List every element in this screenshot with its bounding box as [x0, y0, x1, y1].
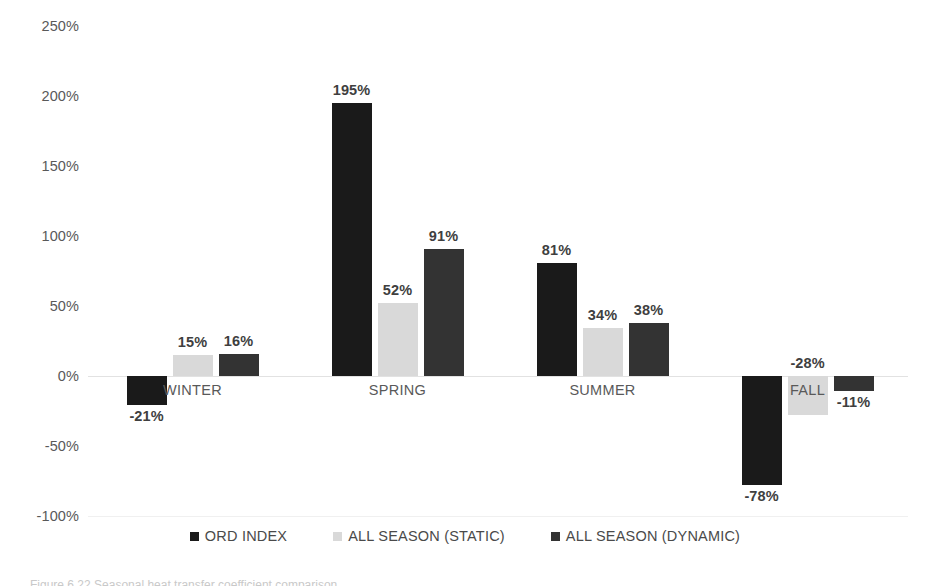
legend-label: ALL SEASON (STATIC): [348, 528, 505, 544]
bar-chart: 250%200%150%100%50%0%-50%-100%-21%15%16%…: [0, 0, 930, 586]
bar-value-label: -28%: [790, 355, 824, 371]
bar-group: -78%-28%-11%FALL: [703, 26, 908, 516]
bar-value-label: -78%: [744, 488, 778, 504]
y-axis-tick-label: -50%: [45, 438, 79, 454]
bar[interactable]: [742, 376, 782, 485]
bar-value-label: 15%: [178, 334, 207, 350]
bar-value-label: 195%: [333, 82, 371, 98]
bar-group: -21%15%16%WINTER: [88, 26, 293, 516]
figure-caption-sliver: Figure 6.22 Seasonal heat transfer coeff…: [30, 578, 450, 586]
x-axis-category-label: SPRING: [369, 382, 426, 398]
x-axis-category-label: SUMMER: [569, 382, 635, 398]
y-axis-tick-label: 200%: [42, 88, 80, 104]
bar-value-label: 81%: [542, 242, 571, 258]
bar[interactable]: [332, 103, 372, 376]
bar[interactable]: [173, 355, 213, 376]
legend-item[interactable]: ALL SEASON (DYNAMIC): [551, 528, 740, 544]
bar-value-label: 16%: [224, 333, 253, 349]
bar-group: 81%34%38%SUMMER: [498, 26, 703, 516]
bar[interactable]: [629, 323, 669, 376]
bar[interactable]: [424, 249, 464, 376]
legend-swatch-icon: [551, 532, 560, 541]
bar-value-label: 52%: [383, 282, 412, 298]
legend-swatch-icon: [333, 532, 342, 541]
bar[interactable]: [583, 328, 623, 376]
y-axis-tick-label: -100%: [37, 508, 79, 524]
legend-item[interactable]: ORD INDEX: [190, 528, 287, 544]
y-axis-tick-label: 150%: [42, 158, 80, 174]
axis-bottom-line: [88, 516, 908, 517]
y-axis-tick-label: 0%: [58, 368, 79, 384]
bar-value-label: 91%: [429, 228, 458, 244]
legend-label: ALL SEASON (DYNAMIC): [566, 528, 740, 544]
plot-area: 250%200%150%100%50%0%-50%-100%-21%15%16%…: [88, 26, 908, 516]
bar[interactable]: [378, 303, 418, 376]
bar-group: 195%52%91%SPRING: [293, 26, 498, 516]
bar[interactable]: [537, 263, 577, 376]
y-axis-tick-label: 50%: [50, 298, 79, 314]
x-axis-category-label: WINTER: [163, 382, 222, 398]
legend-swatch-icon: [190, 532, 199, 541]
chart-legend: ORD INDEXALL SEASON (STATIC)ALL SEASON (…: [0, 528, 930, 544]
bar[interactable]: [834, 376, 874, 391]
bar-value-label: 38%: [634, 302, 663, 318]
bar-value-label: 34%: [588, 307, 617, 323]
legend-item[interactable]: ALL SEASON (STATIC): [333, 528, 505, 544]
y-axis-tick-label: 100%: [42, 228, 80, 244]
y-axis-tick-label: 250%: [42, 18, 80, 34]
bar-value-label: -21%: [129, 408, 163, 424]
bar[interactable]: [219, 354, 259, 376]
bar-value-label: -11%: [837, 394, 870, 410]
x-axis-category-label: FALL: [790, 382, 825, 398]
bar[interactable]: [127, 376, 167, 405]
legend-label: ORD INDEX: [205, 528, 287, 544]
